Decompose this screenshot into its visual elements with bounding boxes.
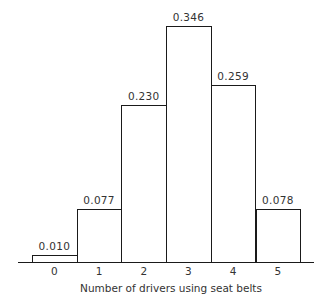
x-axis-label: Number of drivers using seat belts (0, 282, 328, 294)
bar-3 (166, 26, 212, 262)
x-tick-label: 4 (211, 265, 255, 277)
bar-value-label: 0.078 (256, 194, 300, 206)
x-tick-label: 5 (256, 265, 300, 277)
x-tick-label: 2 (122, 265, 166, 277)
bar-2 (121, 105, 167, 262)
bar-value-label: 0.230 (122, 90, 166, 102)
bar-value-label: 0.077 (77, 194, 121, 206)
x-axis-baseline (18, 262, 314, 263)
x-tick-label: 1 (77, 265, 121, 277)
bar-0 (32, 255, 78, 262)
bar-value-label: 0.010 (32, 240, 76, 252)
bar-value-label: 0.259 (211, 70, 255, 82)
histogram-chart: 0.01000.07710.23020.34630.25940.0785 Num… (0, 0, 328, 305)
bar-1 (77, 209, 123, 262)
bar-5 (256, 209, 302, 262)
x-tick-label: 0 (32, 265, 76, 277)
bar-value-label: 0.346 (166, 11, 210, 23)
bar-4 (211, 85, 257, 262)
x-tick-label: 3 (166, 265, 210, 277)
